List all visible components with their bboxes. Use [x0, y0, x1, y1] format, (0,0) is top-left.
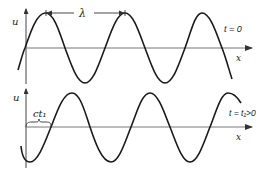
bottom-time-label: t = t₁>0 [229, 108, 256, 118]
ct1-brace [26, 119, 51, 127]
top-x-axis-label: x [236, 53, 241, 63]
ct1-label: ct₁ [33, 108, 47, 119]
bottom-x-axis-label: x [236, 132, 241, 142]
top-panel: u x t = 0 λ [12, 6, 252, 84]
top-time-label: t = 0 [224, 24, 242, 34]
bottom-y-axis-label: u [13, 92, 19, 103]
wavelength-label: λ [78, 7, 86, 20]
bottom-panel: u x t = t₁>0 ct₁ [13, 89, 256, 168]
top-y-axis-label: u [12, 16, 18, 27]
wave-diagram: u x t = 0 λ u x t = t₁>0 ct₁ [0, 0, 271, 172]
